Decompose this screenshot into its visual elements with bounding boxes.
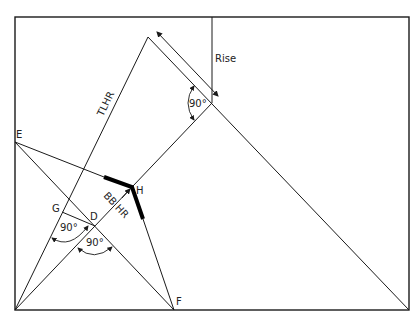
tlhr-line: [15, 37, 148, 310]
rise-dimension-arrow: [157, 32, 218, 96]
bbhr-arrow: [122, 189, 130, 198]
d-angle-label: 90°: [86, 237, 104, 248]
label-h: H: [136, 185, 144, 196]
d-angle-arc: [78, 247, 112, 255]
bbhr-label: BB HR: [102, 190, 131, 220]
label-f: F: [176, 296, 182, 307]
roof-framing-diagram: Rise TLHR BB HR E G D H F 90° 90° 90°: [0, 0, 420, 321]
h-to-f-line: [143, 219, 174, 310]
label-g: G: [52, 203, 60, 214]
label-d: D: [90, 211, 98, 222]
rise-label: Rise: [215, 53, 236, 64]
g-angle-label: 90°: [60, 222, 78, 233]
tlhr-label: TLHR: [94, 90, 116, 119]
e-to-h-line: [15, 142, 104, 177]
main-slope-line: [148, 37, 409, 310]
label-e: E: [16, 129, 22, 140]
top-right-angle-label: 90°: [189, 98, 207, 109]
